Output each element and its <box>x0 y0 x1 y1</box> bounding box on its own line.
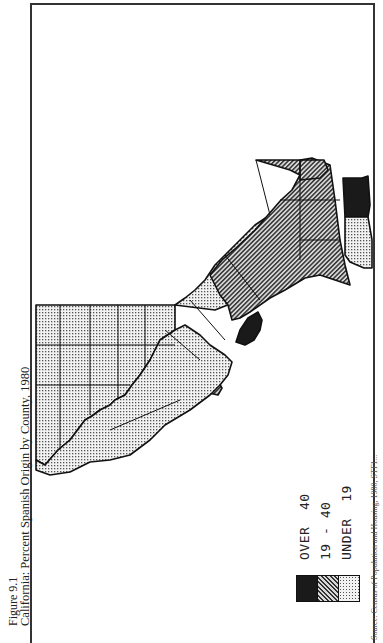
region-imperial <box>343 176 370 217</box>
region-south-east <box>210 158 350 320</box>
legend-label-over-40: OVER 40 <box>297 493 312 560</box>
legend-swatch-under-19 <box>338 575 360 602</box>
region-san-diego <box>345 217 372 268</box>
legend-swatch-19-40 <box>317 575 339 602</box>
legend-label-under-19: UNDER 19 <box>339 485 354 560</box>
legend-label-19-40: 19 - 40 <box>318 502 333 560</box>
legend-swatch-over-40 <box>296 575 318 602</box>
